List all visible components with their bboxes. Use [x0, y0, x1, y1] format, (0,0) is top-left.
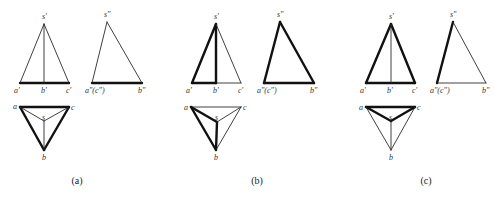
panel-b-pyramid-projections: s'a'b'c's"a"(c")b"acsb(b) [184, 10, 318, 187]
panel-caption: (a) [71, 175, 82, 187]
vertex-label: c [71, 103, 75, 112]
vertex-label: b' [213, 86, 219, 95]
top-view-edge [217, 107, 241, 122]
side-view-edge [437, 22, 453, 83]
vertex-label: b [214, 153, 218, 162]
orthographic-projection-figure: s'a'b'c's"a"(c")b"acsb(a) s'a'b'c's"a"(c… [0, 0, 494, 199]
vertex-label: a"(c") [430, 86, 450, 95]
side-view-edge [92, 22, 107, 83]
top-view-edge [216, 107, 241, 150]
vertex-label: s' [214, 12, 219, 21]
front-view-edge [44, 24, 69, 83]
vertex-label: s [215, 113, 218, 122]
vertex-label: s' [389, 12, 394, 21]
side-view-edge [453, 22, 486, 83]
vertex-label: c [243, 103, 247, 112]
vertex-label: s" [450, 10, 457, 19]
vertex-label: s [389, 113, 392, 122]
front-view-edge [216, 24, 241, 83]
vertex-label: a' [360, 86, 366, 95]
vertex-label: a"(c") [257, 86, 277, 95]
vertex-label: b" [138, 86, 146, 95]
vertex-label: b [42, 153, 46, 162]
vertex-label: s [42, 113, 45, 122]
vertex-label: c' [66, 86, 72, 95]
vertex-label: b" [310, 86, 318, 95]
vertex-label: s" [104, 10, 111, 19]
front-view-edge [391, 24, 415, 83]
side-view-edge [107, 22, 142, 83]
vertex-label: a' [14, 86, 20, 95]
front-view-edge [366, 24, 391, 83]
top-view-edge [216, 122, 217, 150]
front-view-edge [20, 24, 44, 83]
vertex-label: a' [186, 86, 192, 95]
top-view-edge [20, 107, 44, 150]
panel-caption: (c) [420, 175, 431, 187]
vertex-label: a [184, 103, 188, 112]
vertex-label: s' [42, 12, 47, 21]
vertex-label: a [13, 102, 17, 111]
vertex-label: s" [277, 10, 284, 19]
vertex-label: b' [387, 86, 393, 95]
side-view-edge [280, 22, 314, 83]
vertex-label: c [417, 103, 421, 112]
vertex-label: c' [238, 86, 244, 95]
vertex-label: c' [412, 86, 418, 95]
side-view-edge [264, 22, 280, 83]
front-view-edge [192, 24, 216, 83]
panel-caption: (b) [251, 175, 263, 187]
vertex-label: a"(c") [85, 86, 105, 95]
vertex-label: b" [482, 86, 490, 95]
vertex-label: a [359, 103, 363, 112]
vertex-label: b [389, 153, 393, 162]
panel-a-pyramid-projections: s'a'b'c's"a"(c")b"acsb(a) [13, 10, 146, 187]
panel-c-pyramid-projections: s'a'b'c's"a"(c")b"acsb(c) [359, 10, 490, 187]
vertex-label: b' [41, 86, 47, 95]
top-view-edge [44, 107, 69, 150]
